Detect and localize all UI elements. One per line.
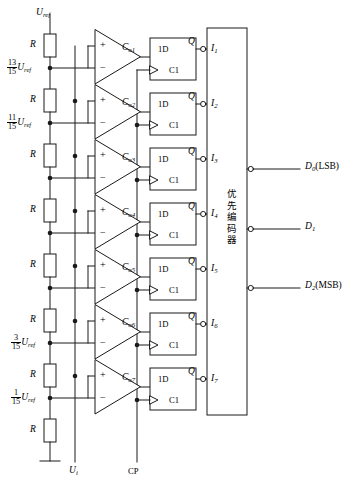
junction-ui-4 [73,209,78,214]
ff-d-label-4: 1D [158,209,169,219]
encoder-input-label-3: I3 [211,154,218,164]
cp-clock-label: CP [128,466,139,476]
comparator-plus-7: + [100,370,106,380]
junction-ui-6 [73,319,78,324]
resistor-label-8: R [30,425,36,435]
comparator-output-label-7: Co7 [122,373,135,383]
ff-q-label-7: Q [188,367,195,377]
ladder-resistor-6 [44,309,56,332]
comparator-output-label-5: Co5 [122,263,135,273]
comparator-output-label-2: Co2 [122,98,135,108]
encoder-input-label-1: I1 [211,44,218,54]
stage-row-1 [50,30,207,84]
comparator-minus-3: − [100,173,106,183]
circuit-diagram-canvas: Uref R R R R R R R R 1315Uref 1115Uref 3… [0,0,362,492]
tap-label-6: 315Uref [11,334,35,352]
comparator-plus-5: + [100,260,106,270]
junction-ui-2 [73,99,78,104]
comparator-output-label-3: Co3 [122,153,135,163]
resistor-label-7: R [30,370,36,380]
encoder-output-label-1: D1 [305,222,315,232]
ff-d-label-1: 1D [158,44,169,54]
ladder-resistor-8 [44,419,56,442]
junction-cp-2 [135,123,140,128]
ff-q-label-5: Q [188,257,195,267]
junction-cp-7 [135,398,140,403]
comparator-minus-6: − [100,338,106,348]
ladder-resistor-3 [44,144,56,167]
ff-d-label-6: 1D [158,319,169,329]
encoder-input-label-6: I6 [211,319,218,329]
ui-input-label: Ui [69,466,78,476]
encoder-char-3: 编 [225,212,239,224]
ff-d-label-7: 1D [158,374,169,384]
comparator-output-label-4: Co4 [122,208,135,218]
encoder-input-label-2: I2 [211,99,218,109]
tap-label-1: 1315Uref [7,59,31,77]
ff-q-label-1: Q [188,37,195,47]
junction-tap-3 [48,176,53,181]
ladder-resistor-4 [44,199,56,222]
encoder-input-bubble-3 [201,156,206,161]
encoder-input-bubble-6 [201,321,206,326]
stage-row-6 [50,305,207,359]
encoder-char-4: 码 [225,224,239,236]
tap-label-7: 115Uref [11,389,35,407]
ff-d-label-2: 1D [158,99,169,109]
encoder-input-bubble-1 [201,46,206,51]
junction-ui-3 [73,154,78,159]
resistor-label-1: R [30,40,36,50]
encoder-input-label-4: I4 [211,209,218,219]
junction-tap-6 [48,341,53,346]
ff-q-label-2: Q [188,92,195,102]
encoder-outputs [247,166,300,290]
ff-c-label-5: C1 [169,285,179,295]
junction-cp-6 [135,343,140,348]
comparator-plus-4: + [100,205,106,215]
stage-row-3 [50,140,207,194]
resistor-label-3: R [30,150,36,160]
junction-tap-5 [48,286,53,291]
junction-tap-4 [48,231,53,236]
comparator-output-label-1: Co1 [122,43,135,53]
ff-c-label-3: C1 [169,175,179,185]
ff-c-label-7: C1 [169,395,179,405]
encoder-input-label-5: I5 [211,264,218,274]
resistor-label-4: R [30,205,36,215]
resistor-label-6: R [30,315,36,325]
comparator-plus-6: + [100,315,106,325]
stage-row-7 [50,360,207,414]
comparator-minus-5: − [100,283,106,293]
ff-q-label-6: Q [188,312,195,322]
ladder-resistor-7 [44,364,56,387]
encoder-input-label-7: I7 [211,374,218,384]
ladder-resistor-2 [44,89,56,112]
encoder-output-label-2: D2(MSB) [305,281,342,291]
reference-ladder [40,14,60,461]
junction-ui-7 [73,374,78,379]
comparator-output-label-6: Co6 [122,318,135,328]
junction-tap-2 [48,121,53,126]
comparator-minus-4: − [100,228,106,238]
stage-row-5 [50,250,207,304]
ff-c-label-2: C1 [169,120,179,130]
comparator-plus-1: + [100,40,106,50]
stage-row-4 [50,195,207,249]
ff-c-label-6: C1 [169,340,179,350]
resistor-label-5: R [30,260,36,270]
junction-cp-4 [135,233,140,238]
encoder-input-bubble-7 [201,376,206,381]
stage-row-2 [50,85,207,139]
priority-encoder-name: 优 先 编 码 器 [225,189,239,247]
circuit-schematic-svg [0,0,362,492]
ff-d-label-3: 1D [158,154,169,164]
comparator-minus-7: − [100,393,106,403]
encoder-char-1: 优 [225,189,239,201]
encoder-output-bubble-2 [248,285,253,290]
ff-c-label-1: C1 [169,65,179,75]
encoder-output-bubble-1 [248,226,253,231]
junction-ui-5 [73,264,78,269]
junction-cp-3 [135,178,140,183]
comparator-plus-2: + [100,95,106,105]
encoder-input-bubble-5 [201,266,206,271]
